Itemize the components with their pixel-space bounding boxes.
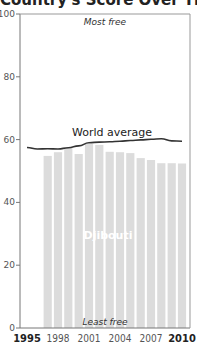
least-free-label: Least free (82, 317, 128, 327)
x-axis: 199519982001200420072010 (13, 332, 196, 345)
world-average-label: World average (72, 126, 152, 139)
bar-2008 (157, 163, 165, 328)
bar-1997 (44, 156, 52, 328)
x-tick-label: 1998 (47, 333, 70, 344)
x-tick-label: 1995 (13, 332, 41, 345)
x-tick-label: 2010 (168, 332, 196, 345)
x-tick-label: 2004 (109, 333, 132, 344)
bar-2007 (147, 160, 155, 328)
bar-1998 (54, 152, 62, 328)
y-axis: 020406080100 (0, 9, 20, 333)
bar-2009 (168, 163, 176, 328)
y-tick-label: 40 (4, 197, 16, 207)
x-tick-label: 2001 (78, 333, 101, 344)
world-average-line (27, 139, 182, 149)
bar-2000 (75, 154, 83, 328)
bar-2006 (137, 158, 145, 328)
y-tick-label: 60 (4, 135, 16, 145)
chart-plot: 020406080100 199519982001200420072010 Mo… (0, 0, 197, 347)
y-tick-label: 100 (0, 9, 15, 19)
bar-2010 (178, 164, 186, 329)
most-free-label: Most free (84, 17, 127, 27)
y-tick-label: 80 (4, 72, 16, 82)
country-label: Djibouti (84, 229, 133, 242)
y-tick-label: 20 (4, 260, 16, 270)
bar-1999 (64, 148, 72, 328)
x-tick-label: 2007 (140, 333, 163, 344)
